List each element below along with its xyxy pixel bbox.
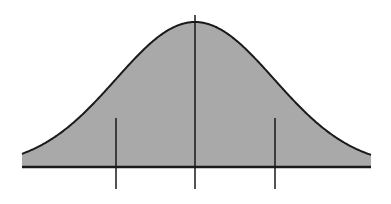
bell-curve-diagram bbox=[0, 0, 391, 204]
curve-shaded-area bbox=[22, 22, 371, 167]
